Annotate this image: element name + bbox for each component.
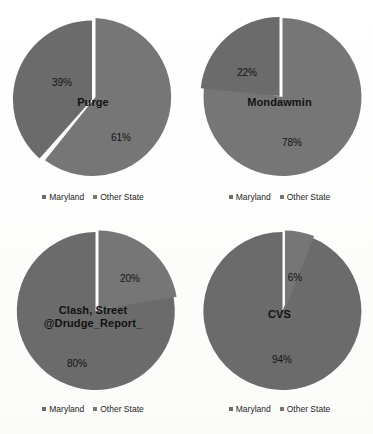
pie-chart-purge: 39% 61% Purge Maryland Other State [0, 0, 186, 218]
legend-label-maryland: Maryland [49, 192, 84, 202]
legend-entry-other-state[interactable]: Other State [280, 192, 330, 202]
pie-chart-cvs: 6% 94% CVS Maryland Other State [186, 218, 373, 434]
pie-slice-clash-street-other-state[interactable] [99, 230, 177, 309]
legend-cvs: Maryland Other State [186, 404, 373, 414]
pie-value-clash-street-maryland: 80% [67, 358, 87, 369]
legend-swatch-icon-other-state [93, 407, 97, 411]
pie-value-clash-street-other-state: 20% [120, 273, 140, 284]
legend-entry-other-state[interactable]: Other State [93, 192, 143, 202]
legend-label-maryland: Maryland [49, 404, 84, 414]
pie-value-mondawmin-other-state: 78% [281, 137, 301, 148]
legend-swatch-icon-maryland [229, 407, 233, 411]
pie-svg-purge: 39% 61% [11, 14, 175, 178]
legend-entry-maryland[interactable]: Maryland [42, 192, 84, 202]
legend-label-other-state: Other State [287, 404, 330, 414]
legend-entry-other-state[interactable]: Other State [93, 404, 143, 414]
pie-graphic-mondawmin: 22% 78% Mondawmin [198, 14, 362, 178]
legend-purge: Maryland Other State [0, 192, 186, 202]
legend-mondawmin: Maryland Other State [186, 192, 373, 202]
legend-entry-maryland[interactable]: Maryland [229, 192, 271, 202]
legend-label-other-state: Other State [287, 192, 330, 202]
pie-svg-clash-street: 20% 80% [11, 228, 175, 392]
legend-entry-other-state[interactable]: Other State [280, 404, 330, 414]
pie-value-cvs-other-state: 6% [287, 272, 302, 283]
legend-entry-maryland[interactable]: Maryland [42, 404, 84, 414]
pie-value-cvs-maryland: 94% [271, 354, 291, 365]
legend-swatch-icon-other-state [93, 195, 97, 199]
legend-swatch-icon-other-state [280, 195, 284, 199]
pie-slice-mondawmin-maryland[interactable] [200, 17, 279, 96]
pie-graphic-clash-street: 20% 80% Clash, Street @Drudge_Report_ [11, 228, 175, 392]
pie-graphic-purge: 39% 61% Purge [11, 14, 175, 178]
legend-entry-maryland[interactable]: Maryland [229, 404, 271, 414]
pie-chart-mondawmin: 22% 78% Mondawmin Maryland Other State [186, 0, 373, 218]
legend-clash-street: Maryland Other State [0, 404, 186, 414]
figure-canvas: 39% 61% Purge Maryland Other State [0, 0, 373, 434]
legend-label-other-state: Other State [100, 192, 143, 202]
pie-value-purge-other-state: 61% [111, 132, 131, 143]
pie-chart-clash-street-drudge-report: 20% 80% Clash, Street @Drudge_Report_ Ma… [0, 218, 186, 434]
pie-slice-cvs-maryland[interactable] [203, 232, 361, 390]
pie-svg-cvs: 6% 94% [198, 228, 362, 392]
legend-swatch-icon-other-state [280, 407, 284, 411]
pie-value-mondawmin-maryland: 22% [236, 67, 256, 78]
pie-svg-mondawmin: 22% 78% [198, 14, 362, 178]
pie-value-purge-maryland: 39% [52, 77, 72, 88]
legend-label-other-state: Other State [100, 404, 143, 414]
legend-swatch-icon-maryland [42, 407, 46, 411]
legend-swatch-icon-maryland [229, 195, 233, 199]
legend-label-maryland: Maryland [236, 192, 271, 202]
pie-graphic-cvs: 6% 94% CVS [198, 228, 362, 392]
legend-label-maryland: Maryland [236, 404, 271, 414]
pie-chart-grid: 39% 61% Purge Maryland Other State [0, 0, 373, 434]
legend-swatch-icon-maryland [42, 195, 46, 199]
